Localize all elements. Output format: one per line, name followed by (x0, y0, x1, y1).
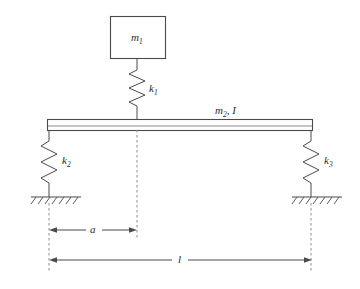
ground-right-hatching (292, 197, 339, 204)
ground-left (31, 197, 81, 204)
dimension-l-label: l (178, 253, 181, 265)
dimension-a-arrow-right (129, 227, 137, 233)
spring-k2: k2 (41, 130, 71, 197)
spring-k1-label: k1 (149, 82, 158, 97)
spring-k2-coils (41, 141, 57, 183)
spring-k3-label: k3 (324, 154, 333, 169)
spring-k2-label: k2 (62, 154, 71, 169)
dimension-a-arrow-left (49, 227, 57, 233)
spring-k3-coils (303, 141, 319, 183)
spring-k3: k3 (303, 130, 333, 197)
beam-rect (48, 120, 313, 131)
mass-block-m1: m1 (111, 17, 166, 59)
dimension-a: a (49, 222, 137, 237)
beam-label: m2, I (215, 104, 237, 119)
spring-k1: k1 (129, 58, 158, 119)
extension-lines (49, 130, 311, 272)
ground-left-hatching (31, 197, 78, 204)
mechanical-system-diagram: m1 k1 m2, I k2 (0, 0, 360, 289)
ground-right (292, 197, 342, 204)
beam-m2: m2, I (48, 104, 313, 131)
dimension-a-label: a (90, 223, 96, 235)
spring-k1-coils (129, 70, 145, 106)
diagram-canvas: m1 k1 m2, I k2 (0, 0, 360, 289)
dimension-l: l (49, 252, 312, 267)
dimension-l-arrow-left (49, 257, 57, 263)
